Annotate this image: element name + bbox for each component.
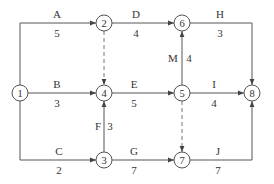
- node-8: 8: [244, 85, 260, 101]
- node-1-label: 1: [17, 88, 22, 99]
- activity-i: I 4: [190, 78, 244, 109]
- activity-c-name: C: [55, 145, 62, 157]
- activity-j: J 7: [190, 101, 252, 176]
- node-7: 7: [174, 152, 190, 168]
- activity-j-duration: 7: [215, 164, 221, 176]
- activity-b-duration: 3: [54, 97, 60, 109]
- activity-h-duration: 3: [217, 27, 223, 39]
- activity-d-duration: 4: [133, 27, 139, 39]
- activity-c-duration: 2: [56, 164, 62, 176]
- node-7-label: 7: [179, 155, 184, 166]
- node-2: 2: [96, 15, 112, 31]
- node-4-label: 4: [101, 88, 107, 99]
- activity-b: B 3: [28, 78, 96, 109]
- node-4: 4: [96, 85, 112, 101]
- activity-f-duration: 3: [107, 120, 113, 132]
- activity-i-duration: 4: [211, 97, 217, 109]
- activity-g-duration: 7: [131, 164, 137, 176]
- network-diagram: A 5 B 3 C 2 D 4 E 5 F: [0, 0, 274, 184]
- activity-j-name: J: [216, 145, 221, 157]
- activity-b-name: B: [53, 78, 60, 90]
- activity-i-name: I: [212, 78, 216, 90]
- activity-g: G 7: [112, 145, 174, 176]
- activity-m: M 4: [168, 31, 192, 85]
- activity-a-duration: 5: [54, 27, 60, 39]
- activity-g-name: G: [130, 145, 138, 157]
- activity-a-name: A: [53, 8, 61, 20]
- activity-e: E 5: [112, 78, 174, 109]
- node-5: 5: [174, 85, 190, 101]
- activity-m-duration: 4: [186, 52, 192, 64]
- activity-d: D 4: [112, 8, 174, 39]
- node-6: 6: [174, 15, 190, 31]
- activity-f-name: F: [95, 120, 101, 132]
- activity-h-name: H: [216, 8, 224, 20]
- node-3-label: 3: [101, 155, 106, 166]
- activity-a: A 5: [20, 8, 96, 85]
- activity-h: H 3: [190, 8, 252, 85]
- node-3: 3: [96, 152, 112, 168]
- node-5-label: 5: [179, 88, 184, 99]
- activity-e-duration: 5: [131, 97, 137, 109]
- node-8-label: 8: [249, 88, 254, 99]
- node-1: 1: [12, 85, 28, 101]
- node-2-label: 2: [101, 18, 106, 29]
- activity-m-name: M: [168, 52, 178, 64]
- activity-d-name: D: [132, 8, 140, 20]
- node-6-label: 6: [179, 18, 184, 29]
- activity-c: C 2: [20, 101, 96, 176]
- activity-e-name: E: [131, 78, 138, 90]
- activity-f: F 3: [95, 101, 113, 152]
